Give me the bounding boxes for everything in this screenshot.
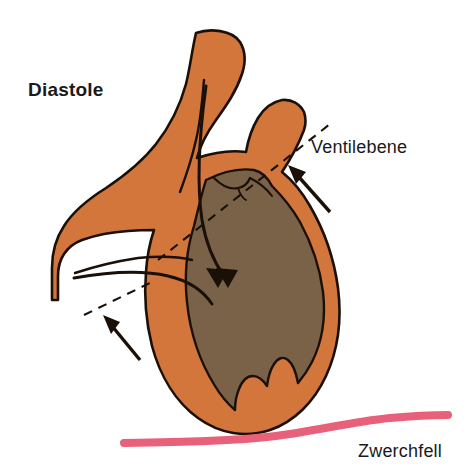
label-valve-plane: Ventilebene	[311, 138, 407, 156]
heart-illustration	[0, 0, 473, 470]
label-diaphragm: Zwerchfell	[358, 442, 442, 460]
page-title: Diastole	[28, 80, 104, 99]
valve-plane-motion-arrow-left	[103, 315, 140, 360]
heart-diastole-diagram: Diastole Ventilebene Zwerchfell	[0, 0, 473, 470]
